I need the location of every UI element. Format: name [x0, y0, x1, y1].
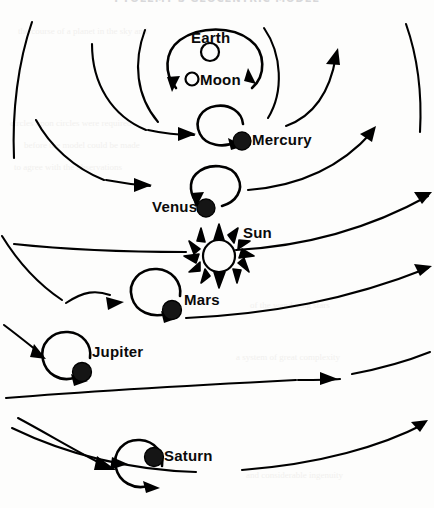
jupiter-system — [42, 332, 91, 386]
deferent-arc-venus — [36, 120, 376, 192]
label-saturn: Saturn — [164, 448, 213, 463]
deferent-arc-saturn-carrier — [18, 418, 116, 470]
label-sun: Sun — [243, 225, 272, 240]
deferent-arc-outer-right — [406, 24, 420, 132]
deferent-arc-jupiter-carrier — [4, 325, 46, 359]
venus-body — [197, 199, 215, 217]
mars-body — [163, 301, 182, 320]
deferent-arc-outer-left — [14, 22, 32, 158]
deferent-arc-jupiter — [6, 352, 430, 398]
moon-body — [186, 73, 199, 86]
mercury-system — [198, 106, 251, 150]
label-mercury: Mercury — [252, 132, 312, 147]
mercury-body — [233, 132, 251, 150]
deferent-arc-saturn — [12, 420, 428, 472]
label-venus: Venus — [152, 199, 197, 214]
label-jupiter: Jupiter — [92, 344, 143, 359]
venus-system — [191, 166, 240, 217]
label-mars: Mars — [184, 292, 220, 307]
sun-body — [203, 240, 235, 272]
mars-system — [131, 269, 182, 323]
geocentric-model-diagram: PTOLEMY'S GEOCENTRIC MODEL the course of… — [0, 0, 434, 508]
label-moon: Moon — [200, 72, 241, 87]
saturn-body — [145, 448, 164, 467]
label-earth: Earth — [191, 30, 230, 45]
jupiter-body — [73, 363, 92, 382]
